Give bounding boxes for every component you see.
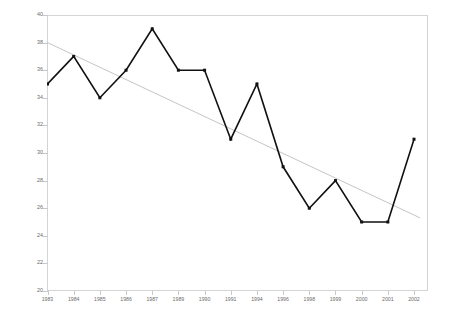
plot-area [47,15,428,291]
data-point-marker [151,27,154,30]
x-axis-tick [309,291,310,295]
data-point-marker [308,207,311,210]
y-axis-tick [43,15,48,16]
y-axis-tick [43,263,48,264]
y-axis-tick-label: 36 [22,67,43,72]
x-axis-tick [48,291,49,295]
y-axis-tick-label: 40 [22,12,43,17]
x-axis-tick-label: 1996 [271,297,295,302]
x-axis-tick [283,291,284,295]
y-axis-tick-label: 32 [22,122,43,127]
data-point-marker [413,138,416,141]
x-axis-tick-label: 1987 [140,297,164,302]
data-series-layer [47,15,428,291]
y-axis-tick-label: 20 [22,288,43,293]
x-axis-tick [152,291,153,295]
y-axis-tick [43,181,48,182]
x-axis-tick-label: 1990 [193,297,217,302]
y-axis-tick-label: 26 [22,205,43,210]
y-axis-tick [43,125,48,126]
y-axis-tick-label: 34 [22,95,43,100]
y-axis-tick-label: 22 [22,260,43,265]
x-axis-tick [335,291,336,295]
y-axis-tick [43,208,48,209]
y-axis-tick-label: 24 [22,233,43,238]
data-point-marker [229,138,232,141]
x-axis-tick-label: 2002 [402,297,426,302]
data-point-marker [177,69,180,72]
data-point-marker [72,55,75,58]
y-axis-tick [43,43,48,44]
x-axis-tick [178,291,179,295]
data-point-marker [203,69,206,72]
x-axis-tick [414,291,415,295]
data-point-marker [334,179,337,182]
x-axis-tick [362,291,363,295]
x-axis-tick-label: 2000 [350,297,374,302]
x-axis-tick-label: 1985 [88,297,112,302]
y-axis-tick [43,236,48,237]
y-axis-tick-label: 30 [22,150,43,155]
x-axis-tick-label: 1991 [219,297,243,302]
x-axis-tick-label: 1999 [323,297,347,302]
data-point-marker [360,221,363,224]
x-axis-tick-label: 1986 [114,297,138,302]
data-point-marker [386,221,389,224]
x-axis-tick [100,291,101,295]
y-axis-tick [43,70,48,71]
data-point-marker [282,165,285,168]
x-axis-tick [205,291,206,295]
x-axis-tick [126,291,127,295]
x-axis-tick-label: 1998 [297,297,321,302]
x-axis-tick-label: 2001 [376,297,400,302]
x-axis-tick [74,291,75,295]
x-axis-tick-label: 1994 [245,297,269,302]
x-axis-tick [231,291,232,295]
y-axis-tick [43,98,48,99]
data-point-marker [98,96,101,99]
y-axis-tick [43,153,48,154]
y-axis-tick-label: 38 [22,40,43,45]
data-point-marker [47,83,49,86]
x-axis-tick [257,291,258,295]
x-axis-tick [388,291,389,295]
data-series-line [48,29,415,222]
x-axis-tick-label: 1989 [166,297,190,302]
x-axis-tick-label: 1984 [62,297,86,302]
data-point-markers [47,27,416,223]
data-point-marker [255,83,258,86]
y-axis-tick-label: 28 [22,178,43,183]
x-axis-tick-label: 1983 [36,297,60,302]
line-chart: 2022242628303234363840 19831984198519861… [0,0,449,319]
data-point-marker [125,69,128,72]
